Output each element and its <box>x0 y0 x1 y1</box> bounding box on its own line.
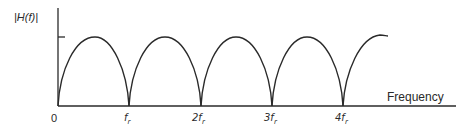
y-axis-label: |H(f)| <box>14 11 38 23</box>
x-tick-3fr: 3fr <box>264 112 277 128</box>
x-tick-fr: fr <box>124 112 130 128</box>
x-tick-2fr: 2fr <box>192 112 205 128</box>
x-axis-label: Frequency <box>387 91 444 103</box>
frequency-response-plot <box>0 0 459 129</box>
magnitude-curve <box>58 35 388 106</box>
origin-label: 0 <box>51 112 57 124</box>
x-tick-4fr: 4fr <box>335 112 348 128</box>
